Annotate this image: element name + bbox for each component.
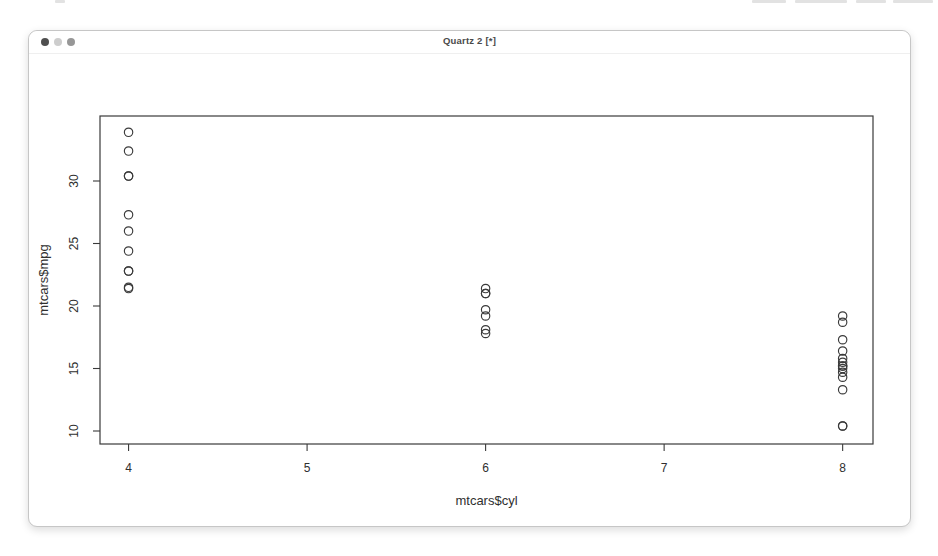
y-tick-label: 15 bbox=[67, 362, 81, 376]
page-crop-mark bbox=[752, 0, 786, 3]
data-point bbox=[838, 336, 846, 344]
window-title: Quartz 2 [*] bbox=[29, 35, 910, 46]
data-point bbox=[481, 306, 489, 314]
data-point bbox=[124, 227, 132, 235]
y-tick-label: 10 bbox=[67, 424, 81, 438]
data-point bbox=[838, 422, 846, 430]
data-point bbox=[124, 267, 132, 275]
plot-box bbox=[100, 116, 873, 444]
data-point bbox=[481, 289, 489, 297]
x-axis-label: mtcars$cyl bbox=[455, 493, 517, 508]
y-tick-label: 30 bbox=[67, 174, 81, 188]
x-tick-label: 8 bbox=[839, 461, 846, 475]
page-crop-mark bbox=[795, 0, 847, 3]
data-point bbox=[481, 284, 489, 292]
page-crop-mark bbox=[55, 0, 65, 3]
data-point bbox=[124, 172, 132, 180]
data-point bbox=[838, 386, 846, 394]
page-crop-remnant bbox=[0, 0, 938, 6]
quartz-window: 456781015202530mtcars$cylmtcars$mpg Quar… bbox=[28, 30, 911, 527]
x-tick-label: 5 bbox=[304, 461, 311, 475]
data-point bbox=[124, 211, 132, 219]
data-point bbox=[838, 312, 846, 320]
page-crop-mark bbox=[893, 0, 933, 3]
y-tick-label: 20 bbox=[67, 299, 81, 313]
y-axis-label: mtcars$mpg bbox=[36, 244, 51, 316]
data-point bbox=[124, 128, 132, 136]
data-point bbox=[124, 247, 132, 255]
plot-svg: 456781015202530mtcars$cylmtcars$mpg bbox=[29, 31, 910, 526]
x-tick-label: 7 bbox=[661, 461, 668, 475]
x-tick-label: 4 bbox=[125, 461, 132, 475]
page-crop-mark bbox=[856, 0, 886, 3]
data-point bbox=[838, 373, 846, 381]
data-point bbox=[124, 147, 132, 155]
window-titlebar[interactable]: Quartz 2 [*] bbox=[29, 31, 910, 54]
x-tick-label: 6 bbox=[482, 461, 489, 475]
y-tick-label: 25 bbox=[67, 237, 81, 251]
